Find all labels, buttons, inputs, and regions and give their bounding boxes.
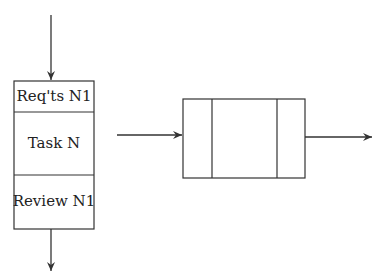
task-box-middle-label: Task N bbox=[14, 136, 94, 151]
process-box bbox=[183, 99, 305, 178]
task-box-top-label: Req'ts N1 bbox=[14, 89, 94, 104]
task-box-bottom-label: Review N1 bbox=[12, 194, 96, 209]
